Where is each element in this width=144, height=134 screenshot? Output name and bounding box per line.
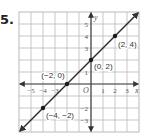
point-label: (0, 2): [94, 62, 113, 71]
point-label: (2, 4): [118, 40, 137, 49]
y-tick-label: −2: [81, 105, 89, 113]
y-tick-label: 4: [85, 33, 89, 41]
y-tick-label: 3: [85, 45, 89, 53]
coordinate-graph: xyO −5−4−31235431−2−3 (−4, −2)(−2, 0)(0,…: [0, 0, 144, 134]
x-axis-label: x: [134, 86, 139, 95]
data-point: [113, 34, 117, 38]
point-label: (−2, 0): [41, 71, 65, 80]
origin-label: O: [83, 86, 89, 95]
y-tick-label: 5: [85, 21, 89, 29]
x-tick-label: −4: [39, 87, 47, 95]
y-axis-label: y: [93, 13, 98, 22]
data-point: [41, 106, 45, 110]
point-label: (−4, −2): [46, 111, 74, 120]
y-tick-label: −3: [81, 117, 89, 125]
x-tick-label: 1: [101, 87, 105, 95]
y-tick-label: 1: [85, 69, 89, 77]
data-point: [65, 82, 69, 86]
x-tick-label: 2: [113, 87, 117, 95]
x-tick-label: −5: [27, 87, 35, 95]
data-point: [89, 58, 93, 62]
x-tick-label: 3: [125, 87, 129, 95]
